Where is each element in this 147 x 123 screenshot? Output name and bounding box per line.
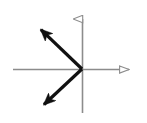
vector-lower-left (44, 69, 82, 104)
vector-upper-left (41, 30, 82, 69)
vector-diagram-canvas (0, 0, 147, 123)
vector-diagram-svg (0, 0, 147, 123)
